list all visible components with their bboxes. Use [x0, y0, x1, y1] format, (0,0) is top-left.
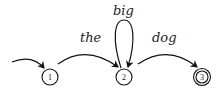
state-1: 1 [42, 69, 58, 85]
edge-the [58, 55, 118, 67]
state-2: 2 [116, 69, 132, 85]
edge-label-big: big [113, 3, 134, 18]
state-label-3: 3 [200, 73, 204, 82]
edge-label-dog: dog [152, 30, 176, 45]
edge-label-the: the [80, 30, 102, 45]
fsa-diagram: the big dog 1 2 3 [0, 0, 220, 95]
state-label-2: 2 [122, 73, 126, 82]
edge-big-loop [115, 20, 133, 68]
state-label-1: 1 [48, 73, 52, 82]
start-arrow [12, 59, 44, 68]
state-3-accept: 3 [194, 69, 211, 86]
edge-dog [138, 55, 197, 67]
